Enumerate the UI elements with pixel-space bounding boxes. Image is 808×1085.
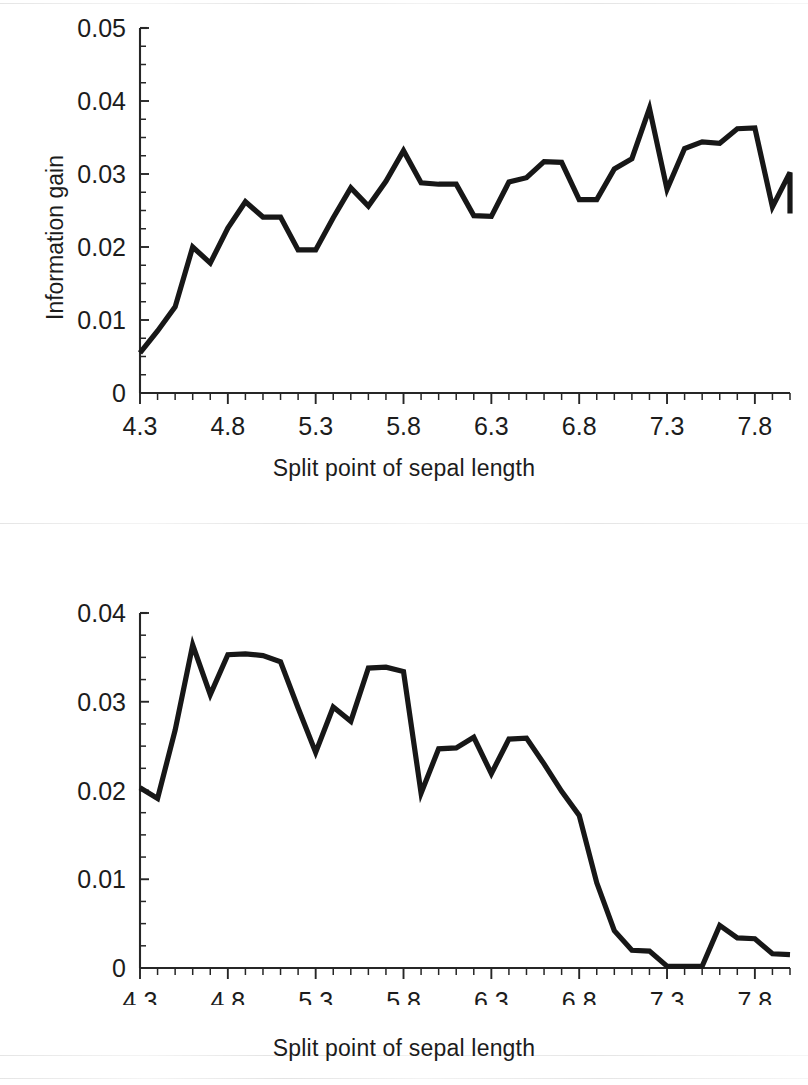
x-axis-tick-label: 7.8 bbox=[737, 987, 772, 1005]
y-axis-tick-label: 0.04 bbox=[77, 87, 126, 115]
chart-panel-top: 00.010.020.030.040.054.34.85.35.86.36.87… bbox=[0, 0, 808, 520]
y-axis-tick-label: 0 bbox=[112, 379, 126, 407]
x-axis-title-bottom: Split point of sepal length bbox=[0, 1035, 808, 1062]
x-axis-tick-label: 4.8 bbox=[210, 412, 245, 440]
chart-panel-bottom: 00.010.020.030.044.34.85.35.86.36.87.37.… bbox=[0, 560, 808, 1085]
y-axis-title-top: Information gain bbox=[42, 155, 69, 320]
x-axis-tick-label: 6.8 bbox=[562, 412, 597, 440]
line-chart-top: 00.010.020.030.040.054.34.85.35.86.36.87… bbox=[0, 0, 808, 440]
x-axis-tick-label: 5.3 bbox=[298, 412, 333, 440]
line-chart-bottom: 00.010.020.030.044.34.85.35.86.36.87.37.… bbox=[0, 560, 808, 1005]
x-axis-title-top: Split point of sepal length bbox=[0, 455, 808, 482]
x-axis-tick-label: 7.8 bbox=[737, 412, 772, 440]
y-axis-tick-label: 0.02 bbox=[77, 233, 126, 261]
y-axis-tick-label: 0.03 bbox=[77, 160, 126, 188]
x-axis-tick-label: 4.3 bbox=[123, 987, 158, 1005]
x-axis-tick-label: 5.8 bbox=[386, 412, 421, 440]
y-axis-tick-label: 0.03 bbox=[77, 688, 126, 716]
y-axis-tick-label: 0 bbox=[112, 954, 126, 982]
scan-artifact-line bbox=[0, 523, 808, 524]
x-axis-tick-label: 6.8 bbox=[562, 987, 597, 1005]
scan-artifact-line bbox=[0, 1055, 808, 1056]
x-axis-tick-label: 4.8 bbox=[210, 987, 245, 1005]
x-axis-tick-label: 6.3 bbox=[474, 412, 509, 440]
data-series-line bbox=[140, 645, 790, 966]
x-axis-tick-label: 7.3 bbox=[650, 987, 685, 1005]
x-axis-tick-label: 5.3 bbox=[298, 987, 333, 1005]
x-axis-tick-label: 6.3 bbox=[474, 987, 509, 1005]
y-axis-tick-label: 0.05 bbox=[77, 14, 126, 42]
x-axis-tick-label: 7.3 bbox=[650, 412, 685, 440]
data-series-line bbox=[140, 108, 790, 353]
y-axis-tick-label: 0.02 bbox=[77, 777, 126, 805]
x-axis-tick-label: 5.8 bbox=[386, 987, 421, 1005]
x-axis-tick-label: 4.3 bbox=[123, 412, 158, 440]
y-axis-tick-label: 0.04 bbox=[77, 599, 126, 627]
y-axis-tick-label: 0.01 bbox=[77, 306, 126, 334]
y-axis-tick-label: 0.01 bbox=[77, 865, 126, 893]
scan-artifact-line bbox=[0, 1078, 808, 1079]
